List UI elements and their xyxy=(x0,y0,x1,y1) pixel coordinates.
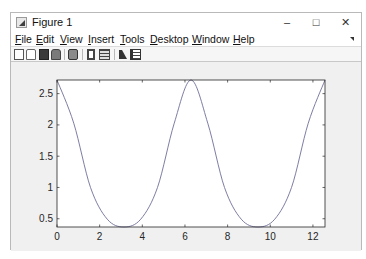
y-tick-label: 2.5 xyxy=(39,88,53,99)
axes-background[interactable] xyxy=(57,80,325,227)
y-tick-label: 0.5 xyxy=(39,213,53,224)
x-tick-label: 12 xyxy=(307,231,319,242)
y-tick-label: 2 xyxy=(47,119,53,130)
x-tick-label: 10 xyxy=(265,231,277,242)
x-tick-label: 8 xyxy=(225,231,231,242)
x-tick-label: 6 xyxy=(182,231,188,242)
y-tick-label: 1.5 xyxy=(39,151,53,162)
x-tick-label: 0 xyxy=(54,231,60,242)
line-chart: 024681012 0.511.522.5 xyxy=(0,0,366,259)
y-tick-label: 1 xyxy=(47,182,53,193)
x-tick-label: 4 xyxy=(140,231,146,242)
x-tick-label: 2 xyxy=(97,231,103,242)
